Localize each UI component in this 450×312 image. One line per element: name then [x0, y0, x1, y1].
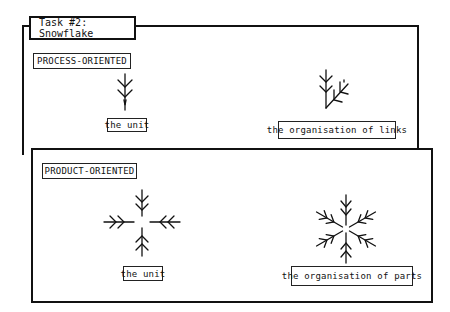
task-title: Task #2: Snowflake: [29, 16, 136, 40]
snowflake-icon: [310, 194, 382, 264]
single-branch-arm-icon: [115, 72, 135, 114]
branching-arms-icon: [318, 68, 352, 112]
four-arm-cross-icon: [104, 190, 180, 258]
product-heading: PRODUCT-ORIENTED: [42, 163, 137, 179]
process-links-caption: the organisation of links: [278, 121, 396, 139]
product-parts-caption: the organisation of parts: [291, 266, 413, 286]
process-unit-caption: the unit: [107, 118, 147, 132]
product-unit-caption: the unit: [123, 266, 163, 281]
process-heading: PROCESS-ORIENTED: [33, 53, 131, 69]
